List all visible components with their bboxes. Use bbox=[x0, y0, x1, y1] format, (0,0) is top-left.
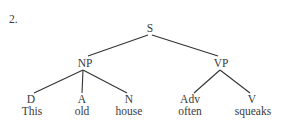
edge-s-np bbox=[88, 35, 148, 56]
edge-s-vp bbox=[152, 35, 218, 56]
node-a: A bbox=[78, 93, 86, 105]
node-n: N bbox=[125, 93, 133, 105]
edge-vp-v bbox=[220, 70, 250, 93]
word-this: This bbox=[22, 105, 42, 117]
word-squeaks: squeaks bbox=[235, 105, 271, 117]
edge-vp-adv bbox=[194, 70, 220, 93]
edge-np-n bbox=[83, 70, 127, 93]
node-adv: Adv bbox=[180, 93, 200, 105]
node-v: V bbox=[248, 93, 256, 105]
edge-np-d bbox=[34, 70, 83, 93]
node-s: S bbox=[147, 22, 153, 34]
word-old: old bbox=[75, 105, 90, 117]
word-house: house bbox=[116, 105, 143, 117]
node-np: NP bbox=[78, 57, 93, 69]
word-often: often bbox=[178, 105, 202, 117]
node-vp: VP bbox=[214, 57, 229, 69]
edge-np-a bbox=[82, 70, 83, 93]
node-d: D bbox=[27, 93, 35, 105]
